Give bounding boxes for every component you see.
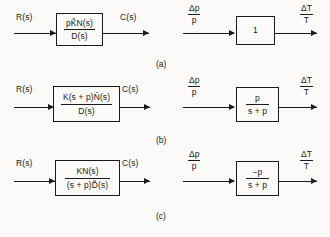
output-ratio-denominator: T xyxy=(300,15,313,25)
numerator: −p xyxy=(246,167,269,179)
block-diagram-c-right: Δp p −p s + p ΔT T xyxy=(180,148,325,208)
row-caption: (b) xyxy=(156,136,166,145)
transfer-function-expression: 1 xyxy=(253,25,258,35)
output-signal-label: C(s) xyxy=(120,13,136,22)
row-caption: (a) xyxy=(156,60,166,69)
transfer-function-block: K(s + p)Ñ(s) D(s) xyxy=(53,86,120,122)
output-arrowhead xyxy=(143,30,149,36)
denominator: (s + p)D̃(s) xyxy=(65,179,110,190)
input-ratio-denominator: p xyxy=(188,161,200,171)
output-signal-ratio: ΔT T xyxy=(300,150,313,172)
input-signal-ratio: Δp p xyxy=(188,150,200,172)
output-ratio-denominator: T xyxy=(300,161,313,171)
output-ratio-numerator: ΔT xyxy=(300,150,313,161)
output-ratio-numerator: ΔT xyxy=(300,76,313,87)
numerator: p xyxy=(246,93,269,105)
output-arrowhead xyxy=(311,178,317,184)
transfer-function-block: p s + p xyxy=(236,87,279,122)
input-connector-line xyxy=(183,33,234,34)
transfer-function-expression: K(s + p)Ñ(s) D(s) xyxy=(61,92,112,115)
output-arrowhead xyxy=(311,104,317,110)
input-ratio-numerator: Δp xyxy=(188,150,200,161)
input-connector-line xyxy=(183,107,234,108)
diagram-row-a: R(s) pK̃N(s) D(s) C(s) Δp p 1 xyxy=(0,2,330,72)
denominator: D(s) xyxy=(61,105,112,116)
row-caption: (c) xyxy=(156,212,166,221)
numerator: K(s + p)Ñ(s) xyxy=(61,92,112,104)
numerator: KN(s) xyxy=(65,166,110,178)
output-ratio-denominator: T xyxy=(300,87,313,97)
input-ratio-denominator: p xyxy=(188,87,200,97)
transfer-function-block: pK̃N(s) D(s) xyxy=(56,13,103,46)
transfer-function-block: 1 xyxy=(236,16,275,45)
block-diagram-figure: R(s) pK̃N(s) D(s) C(s) Δp p 1 xyxy=(0,0,330,237)
output-signal-ratio: ΔT T xyxy=(300,76,313,98)
output-signal-ratio: ΔT T xyxy=(300,4,313,26)
input-signal-label: R(s) xyxy=(16,159,32,168)
block-diagram-b-right: Δp p p s + p ΔT T xyxy=(180,74,325,134)
input-ratio-denominator: p xyxy=(188,15,200,25)
transfer-function-expression: KN(s) (s + p)D̃(s) xyxy=(65,166,110,189)
input-signal-ratio: Δp p xyxy=(188,76,200,98)
output-arrowhead xyxy=(311,30,317,36)
output-arrowhead xyxy=(144,178,150,184)
input-ratio-numerator: Δp xyxy=(188,76,200,87)
block-diagram-c-left: R(s) KN(s) (s + p)D̃(s) C(s) xyxy=(10,148,160,208)
transfer-function-expression: pK̃N(s) D(s) xyxy=(64,18,95,41)
denominator: D(s) xyxy=(64,30,95,41)
transfer-function-expression: −p s + p xyxy=(246,167,269,190)
input-signal-label: R(s) xyxy=(16,13,32,22)
input-arrowhead xyxy=(229,30,235,36)
transfer-function-block: KN(s) (s + p)D̃(s) xyxy=(55,160,120,196)
denominator: s + p xyxy=(246,105,269,116)
denominator: s + p xyxy=(246,179,269,190)
diagram-row-b: R(s) K(s + p)Ñ(s) D(s) C(s) Δp p xyxy=(0,74,330,144)
input-arrowhead xyxy=(229,178,235,184)
output-signal-label: C(s) xyxy=(122,85,138,94)
input-signal-ratio: Δp p xyxy=(188,4,200,26)
block-diagram-a-left: R(s) pK̃N(s) D(s) C(s) xyxy=(10,2,160,62)
output-signal-label: C(s) xyxy=(122,159,138,168)
block-diagram-a-right: Δp p 1 ΔT T xyxy=(180,2,325,62)
output-ratio-numerator: ΔT xyxy=(300,4,313,15)
numerator: pK̃N(s) xyxy=(64,18,95,30)
input-arrowhead xyxy=(229,104,235,110)
input-signal-label: R(s) xyxy=(16,85,32,94)
diagram-row-c: R(s) KN(s) (s + p)D̃(s) C(s) Δp p xyxy=(0,148,330,218)
input-ratio-numerator: Δp xyxy=(188,4,200,15)
block-diagram-b-left: R(s) K(s + p)Ñ(s) D(s) C(s) xyxy=(10,74,160,134)
transfer-function-expression: p s + p xyxy=(246,93,269,116)
output-arrowhead xyxy=(144,104,150,110)
input-connector-line xyxy=(183,181,234,182)
transfer-function-block: −p s + p xyxy=(236,161,279,196)
